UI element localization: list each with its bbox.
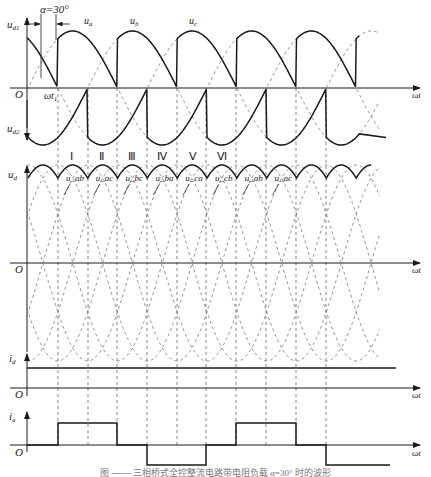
id-origin-label: O (15, 388, 23, 400)
line-voltage-leader (153, 184, 159, 195)
phase-label-ub: ub (130, 15, 139, 28)
ud1-label: ud1 (7, 18, 20, 32)
id-label: id (9, 352, 16, 366)
line-voltage-label: u_ba (155, 173, 174, 183)
top-x-label: ωt (412, 90, 421, 100)
ud-label: ud (8, 168, 18, 182)
interval-2: Ⅱ (99, 150, 104, 162)
ud2-envelope (27, 89, 386, 145)
top-panel: α=30° ud1 ud2 O ωt1 ωt ua ub uc (7, 3, 421, 145)
interval-labels: Ⅰ Ⅱ Ⅲ Ⅳ Ⅴ Ⅵ (70, 150, 227, 162)
id-panel: id O ωt (9, 352, 421, 400)
waveform-figure: α=30° ud1 ud2 O ωt1 ωt ua ub uc Ⅰ Ⅱ Ⅲ Ⅳ … (0, 0, 431, 477)
figure-caption: 图 ─── 三相桥式全控整流电路带电阻负载 α=30° 时的波形 (0, 466, 431, 477)
line-voltage-label: u_ab (66, 173, 85, 183)
mid-origin-label: O (15, 263, 23, 275)
ia-label: ia (9, 410, 16, 424)
line-voltage-leader (64, 184, 70, 195)
phase-label-ua: ua (84, 15, 93, 28)
ia-panel: ia O ωt (9, 410, 421, 465)
line-voltage-label: u_ab (245, 173, 263, 183)
line-voltage-leader (94, 184, 100, 195)
ia-origin-label: O (15, 446, 23, 458)
phase-label-uc: uc (189, 15, 198, 28)
top-origin-label: O (15, 88, 23, 100)
ia-x-label: ωt (412, 448, 421, 458)
id-x-label: ωt (412, 390, 421, 400)
line-voltage-label: u_ac (275, 173, 293, 183)
line-voltage-label: u_ca (185, 173, 203, 183)
line-voltage-leader (273, 184, 279, 195)
line-voltage-leader (243, 184, 249, 195)
ia-current-waveform (27, 423, 390, 465)
line-voltage-label: u_bc (126, 173, 144, 183)
interval-6: Ⅵ (217, 150, 227, 162)
alpha-label: α=30° (40, 3, 69, 15)
line-voltage-leader (183, 184, 189, 195)
interval-5: Ⅴ (189, 150, 197, 162)
middle-panel: ud O ωt u_abu_acu_bcu_bau_cau_cbu_abu_ac (8, 165, 421, 361)
interval-1: Ⅰ (70, 150, 73, 162)
line-voltage-leader (213, 184, 219, 195)
line-voltage-label: u_ac (96, 173, 114, 183)
line-voltage-label: u_cb (215, 173, 233, 183)
vertical-guide-lines (58, 88, 326, 445)
interval-4: Ⅳ (157, 150, 168, 162)
line-voltage-leader (124, 184, 130, 195)
interval-3: Ⅲ (128, 150, 136, 162)
ud1-envelope (27, 31, 359, 87)
ud2-label: ud2 (7, 122, 20, 136)
mid-x-label: ωt (412, 265, 421, 275)
wt1-label: ωt1 (44, 90, 57, 103)
